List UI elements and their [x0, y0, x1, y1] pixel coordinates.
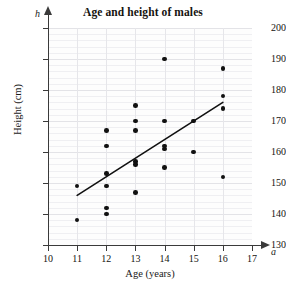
- data-point: [221, 66, 226, 71]
- y-axis-title: Height (cm): [12, 55, 23, 165]
- data-point: [162, 119, 167, 124]
- data-point: [104, 206, 109, 211]
- y-axis-tick-label: 180: [248, 85, 286, 95]
- y-axis-tick: [43, 183, 49, 184]
- x-axis-tick-label: 15: [181, 254, 207, 264]
- y-axis-tick-label: 170: [248, 116, 286, 126]
- y-axis-tick-label: 150: [248, 178, 286, 188]
- data-point: [221, 106, 226, 111]
- x-axis-tick: [194, 245, 195, 251]
- x-axis-title: Age (years): [48, 268, 252, 279]
- data-point: [133, 103, 138, 108]
- chart-title: Age and height of males: [0, 6, 286, 18]
- y-axis-line: [48, 14, 49, 251]
- data-point: [104, 128, 109, 133]
- x-axis-tick-label: 11: [64, 254, 90, 264]
- data-point: [104, 171, 109, 176]
- y-axis-arrow-icon: [44, 6, 52, 15]
- y-axis-tick: [43, 28, 49, 29]
- data-point: [133, 190, 138, 195]
- x-axis-line: [48, 245, 262, 246]
- y-axis-tick: [43, 90, 49, 91]
- data-point: [133, 162, 138, 167]
- x-axis-tick: [165, 245, 166, 251]
- y-axis-tick-label: 190: [248, 54, 286, 64]
- trend-line: [48, 28, 252, 245]
- data-point: [104, 184, 109, 189]
- x-axis-tick: [252, 245, 253, 251]
- y-axis-tick-label: 160: [248, 147, 286, 157]
- x-axis-tick-label: 17: [239, 254, 265, 264]
- x-axis-tick: [77, 245, 78, 251]
- y-axis-tick-label: 130: [248, 240, 286, 250]
- x-axis-tick-label: 16: [210, 254, 236, 264]
- data-point: [162, 165, 167, 170]
- x-axis-tick: [106, 245, 107, 251]
- x-axis-tick: [48, 245, 49, 251]
- data-point: [133, 119, 138, 124]
- x-axis-tick: [135, 245, 136, 251]
- x-axis-tick: [223, 245, 224, 251]
- scatter-plot-figure: Age and height of males h a 130140150160…: [0, 0, 286, 292]
- data-point: [162, 147, 167, 152]
- y-axis-tick: [43, 214, 49, 215]
- data-point: [104, 212, 109, 217]
- y-axis-tick-label: 200: [248, 23, 286, 33]
- x-axis-tick-label: 12: [93, 254, 119, 264]
- data-point: [162, 57, 167, 62]
- x-axis-tick-label: 13: [122, 254, 148, 264]
- y-axis-tick: [43, 121, 49, 122]
- data-point: [133, 128, 138, 133]
- plot-area: [48, 28, 252, 245]
- x-axis-tick-label: 10: [35, 254, 61, 264]
- data-point: [104, 144, 109, 149]
- y-axis-tick: [43, 59, 49, 60]
- x-axis-tick-label: 14: [152, 254, 178, 264]
- y-axis-tick-label: 140: [248, 209, 286, 219]
- y-axis-tick: [43, 152, 49, 153]
- y-axis-variable-label: h: [35, 8, 40, 19]
